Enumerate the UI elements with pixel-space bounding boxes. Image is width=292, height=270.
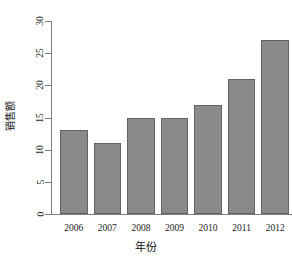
y-axis-tick-label-text: 5 <box>37 179 47 184</box>
y-axis-tick-label: 5 <box>0 177 44 187</box>
y-axis-tick-label: 30 <box>0 16 44 26</box>
bar-chart: 051015202530 200620072008200920102011201… <box>0 0 292 270</box>
bar <box>228 79 256 214</box>
y-axis-tick-label-text: 20 <box>34 81 44 91</box>
y-axis-title: 销售额 <box>4 88 18 144</box>
y-axis-tick-label-text: 15 <box>34 113 44 123</box>
y-axis-title-text: 销售额 <box>4 88 18 144</box>
y-axis-tick-label: 0 <box>0 209 44 219</box>
y-axis-tick-label-text: 10 <box>34 145 44 155</box>
bar <box>60 130 88 214</box>
y-axis-tick-label-text: 25 <box>34 48 44 58</box>
y-axis-tick-label: 25 <box>0 48 44 58</box>
x-axis-line <box>51 214 292 215</box>
y-axis-tick-label-text: 0 <box>37 212 47 217</box>
bar <box>94 143 122 214</box>
plot-area <box>51 12 292 214</box>
x-axis-tick-label: 2012 <box>255 223 292 234</box>
bar <box>261 40 289 214</box>
bar <box>127 118 155 215</box>
y-axis-tick-label-text: 30 <box>34 16 44 26</box>
x-axis-title: 年份 <box>0 241 292 254</box>
bar <box>194 105 222 214</box>
y-axis-tick-label: 10 <box>0 145 44 155</box>
bar <box>161 118 189 215</box>
